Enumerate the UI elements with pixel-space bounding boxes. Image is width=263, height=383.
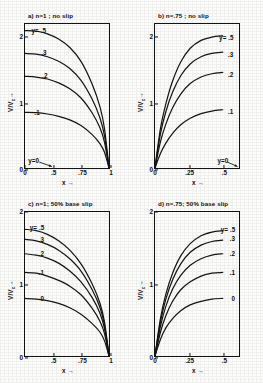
curve-label-c-4: 0 — [40, 296, 44, 302]
curve-label-c-2: .2 — [39, 251, 44, 257]
y-axis-label: V/Vc→ — [7, 280, 16, 300]
y-axis-label: V/Vc→ — [7, 92, 16, 112]
y-tick-label: 1 — [19, 100, 23, 106]
y-axis-label-text: V/V — [137, 101, 144, 112]
x-tick-label: .75 — [78, 170, 87, 176]
y-axis-label-subscript: c — [11, 98, 16, 101]
y-zero-arrow-a — [25, 24, 109, 168]
x-tickmark — [224, 353, 225, 356]
plot-area-b: 0120.25.5x →y= .5.3.2.1y=0 — [154, 23, 240, 169]
panel-a: a) n=1 ; no slip0120.5.751x →y= .5.3.2.1… — [2, 12, 118, 191]
figure-root: a) n=1 ; no slip0120.5.751x →y= .5.3.2.1… — [0, 0, 263, 383]
y-tickmark — [25, 284, 28, 285]
y-zero-arrow-b — [155, 24, 239, 168]
panel-title-d: d) n=.75; 50% base slip — [158, 200, 228, 207]
y-tick-label: 0 — [19, 355, 23, 361]
y-axis-label-text: V/V — [7, 289, 14, 300]
curve-d-0 — [155, 231, 223, 356]
curve-label-d-4: 0 — [231, 296, 235, 302]
panel-title-b: b) n=.75 ; no slip — [158, 12, 209, 19]
curve-label-c-3: .1 — [39, 270, 44, 276]
curve-label-c-0: y= .5 — [30, 225, 45, 231]
plot-area-a: 0120.5.751x →y= .5.3.2.1y=0 — [24, 23, 110, 169]
x-tickmark — [189, 353, 190, 356]
curve-c-1 — [25, 239, 109, 356]
y-tick-label: 1 — [149, 282, 153, 288]
x-tickmark — [53, 353, 54, 356]
panel-c: c) n=1; 50% base slip012.5.751x →y= .5.3… — [2, 200, 118, 379]
x-tick-label: 1 — [109, 170, 113, 176]
y-tickmark — [155, 211, 158, 212]
curve-label-d-0: y= .5 — [221, 226, 236, 232]
y-axis-label-subscript: c — [141, 286, 146, 289]
panel-title-c: c) n=1; 50% base slip — [28, 200, 93, 207]
x-tick-label: .5 — [222, 170, 227, 176]
y-axis-label: V/Vc→ — [137, 92, 146, 112]
x-axis-label: x → — [62, 179, 74, 186]
x-tick-label: .25 — [185, 358, 194, 364]
y-tickmark — [25, 211, 28, 212]
y-axis-label-arrow: → — [137, 92, 144, 99]
curve-label-d-2: .2 — [230, 251, 235, 257]
curve-label-c-1: .3 — [39, 237, 44, 243]
curve-c-4 — [25, 298, 109, 356]
y-axis-label-arrow: → — [137, 280, 144, 287]
curves-d — [155, 212, 239, 356]
y-tick-label: 2 — [19, 34, 23, 40]
y-tick-label: 1 — [19, 282, 23, 288]
x-axis-label: x → — [192, 367, 204, 374]
x-tick-label: 0 — [23, 170, 27, 176]
x-tickmark — [110, 165, 111, 168]
x-axis-label: x → — [62, 367, 74, 374]
x-tick-label: .5 — [222, 358, 227, 364]
plot-area-c: 012.5.751x →y= .5.3.2.10 — [24, 211, 110, 357]
x-tickmark — [82, 353, 83, 356]
y-axis-label-subscript: c — [11, 286, 16, 289]
y-tick-label: 2 — [149, 34, 153, 40]
y-tick-label: 2 — [149, 209, 153, 215]
x-tick-label: .25 — [185, 170, 194, 176]
curves-c — [25, 212, 109, 356]
curve-c-0 — [25, 229, 109, 356]
y-tickmark — [155, 284, 158, 285]
panel-d: d) n=.75; 50% base slip0120.25.5x →y= .5… — [132, 200, 248, 379]
curve-c-2 — [25, 254, 109, 356]
y-tick-label: 2 — [19, 209, 23, 215]
x-tick-label: 1 — [109, 358, 113, 364]
y-axis-label-arrow: → — [7, 92, 14, 99]
x-tick-label: 0 — [153, 358, 157, 364]
x-tick-label: .75 — [78, 358, 87, 364]
panel-b: b) n=.75 ; no slip0120.25.5x →y= .5.3.2.… — [132, 12, 248, 191]
y-axis-label-text: V/V — [137, 289, 144, 300]
x-tick-label: .5 — [51, 358, 56, 364]
x-tick-label: .5 — [51, 170, 56, 176]
curve-d-3 — [155, 272, 223, 356]
x-tickmark — [110, 353, 111, 356]
y-axis-label-text: V/V — [7, 101, 14, 112]
curve-label-d-3: .1 — [230, 270, 235, 276]
y-tickmark — [25, 357, 28, 358]
x-tick-label: 0 — [153, 170, 157, 176]
x-axis-label: x → — [192, 179, 204, 186]
panel-title-a: a) n=1 ; no slip — [28, 12, 73, 19]
y-axis-label-subscript: c — [141, 98, 146, 101]
x-tickmark — [154, 353, 155, 356]
y-tick-label: 1 — [149, 100, 153, 106]
curve-c-3 — [25, 272, 109, 356]
y-axis-label-arrow: → — [7, 280, 14, 287]
y-axis-label: V/Vc→ — [137, 280, 146, 300]
curve-label-d-1: .3 — [230, 236, 235, 242]
plot-area-d: 0120.25.5x →y= .5.3.2.10 — [154, 211, 240, 357]
